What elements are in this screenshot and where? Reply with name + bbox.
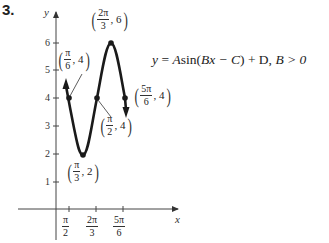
y-axis-label: y [44,6,49,18]
point-label-5pi6-4: ( 5π6 , 4 ) [133,84,173,107]
y-tick-4: 4 [40,92,50,103]
point-label-2pi3-6: ( 2π3 , 6 ) [90,8,130,31]
y-tick-3: 3 [40,120,50,131]
curve-arrow-left [63,78,70,89]
point-label-pi2-4: ( π2 , 4 ) [99,114,134,137]
y-tick-1: 1 [40,176,50,187]
point-label-pi6-4: ( π6 , 4 ) [57,48,92,71]
y-tick-2: 2 [40,148,50,159]
leader-pi6 [70,74,82,96]
x-tick-2pi-3: 2π3 [86,215,98,238]
x-axis-label: x [175,213,180,225]
equation-label: y = Asin(Bx − C) + D, B > 0 [152,52,306,68]
y-tick-5: 5 [40,64,50,75]
y-tick-6: 6 [40,37,50,48]
x-tick-pi-2: π2 [62,215,69,238]
x-tick-5pi-6: 5π6 [113,215,125,238]
point-label-pi3-2: ( π3 , 2 ) [66,160,101,183]
